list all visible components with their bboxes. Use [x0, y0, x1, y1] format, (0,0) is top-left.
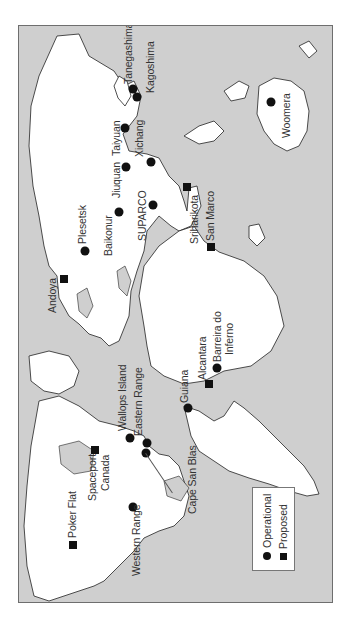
- map-frame: Tanegashima Kagoshima Taiyuan Xichang Ji…: [18, 25, 333, 603]
- label-jiuquan: Jiuquan: [111, 162, 122, 198]
- map-legend: Operational Proposed: [252, 487, 295, 571]
- label-suparco: SUPARCO: [137, 191, 148, 241]
- marker-plesetsk[interactable]: [81, 247, 90, 256]
- label-san-marco: San Marco: [205, 191, 216, 241]
- marker-spaceport-canada[interactable]: [91, 446, 99, 454]
- marker-alcantara[interactable]: [205, 380, 213, 388]
- greenland-landmass: [29, 351, 79, 394]
- label-alcantara: Alcantara: [197, 337, 208, 380]
- new-guinea: [224, 81, 249, 101]
- label-poker-flat: Poker Flat: [67, 491, 78, 538]
- marker-suparco[interactable]: [149, 201, 158, 210]
- label-xichang: Xichang: [134, 120, 145, 157]
- label-sriharikota: Sriharikota: [189, 195, 200, 244]
- label-baikonur: Baikonur: [103, 215, 114, 256]
- marker-xichang[interactable]: [147, 158, 156, 167]
- marker-woomera[interactable]: [267, 98, 276, 107]
- label-cape-san-blas: Cape San Blas: [187, 445, 198, 514]
- label-spaceport: Spaceport: [87, 454, 98, 501]
- south-america-landmass: [184, 401, 319, 496]
- marker-guiana[interactable]: [184, 404, 193, 413]
- label-andoya: Andoya: [47, 278, 58, 313]
- square-icon: [280, 553, 287, 560]
- marker-baikonur[interactable]: [115, 208, 124, 217]
- legend-item-operational: Operational: [261, 494, 273, 560]
- new-zealand: [299, 41, 317, 58]
- madagascar: [249, 224, 265, 246]
- label-plesetsk: Plesetsk: [77, 205, 88, 244]
- label-kagoshima: Kagoshima: [145, 41, 156, 93]
- marker-sriharikota[interactable]: [183, 183, 191, 191]
- indonesia-islands: [184, 121, 224, 144]
- marker-san-marco[interactable]: [207, 243, 215, 251]
- legend-label-proposed: Proposed: [277, 504, 289, 549]
- label-tanegashima: Tanegashima: [123, 25, 134, 84]
- marker-eastern-range[interactable]: [143, 439, 152, 448]
- label-eastern-range: Eastern Range: [133, 367, 144, 436]
- label-canada: Canada: [100, 455, 111, 491]
- north-america-landmass: [24, 396, 189, 601]
- label-woomera: Woomera: [281, 93, 292, 138]
- label-guiana: Guiana: [179, 370, 190, 403]
- label-taiyuan: Taiyuan: [111, 121, 122, 157]
- label-inferno: Inferno: [224, 323, 235, 355]
- marker-poker-flat[interactable]: [69, 541, 77, 549]
- marker-barreira-do-inferno[interactable]: [213, 364, 222, 373]
- label-wallops-island: Wallops Island: [117, 365, 128, 432]
- marker-andoya[interactable]: [60, 275, 68, 283]
- circle-icon: [263, 552, 271, 560]
- label-western-range: Western Range: [131, 505, 142, 576]
- marker-kagoshima[interactable]: [133, 93, 142, 102]
- legend-item-proposed: Proposed: [277, 504, 289, 560]
- label-barreira-do: Barreira do: [212, 311, 223, 362]
- marker-jiuquan[interactable]: [122, 163, 131, 172]
- legend-label-operational: Operational: [261, 494, 273, 548]
